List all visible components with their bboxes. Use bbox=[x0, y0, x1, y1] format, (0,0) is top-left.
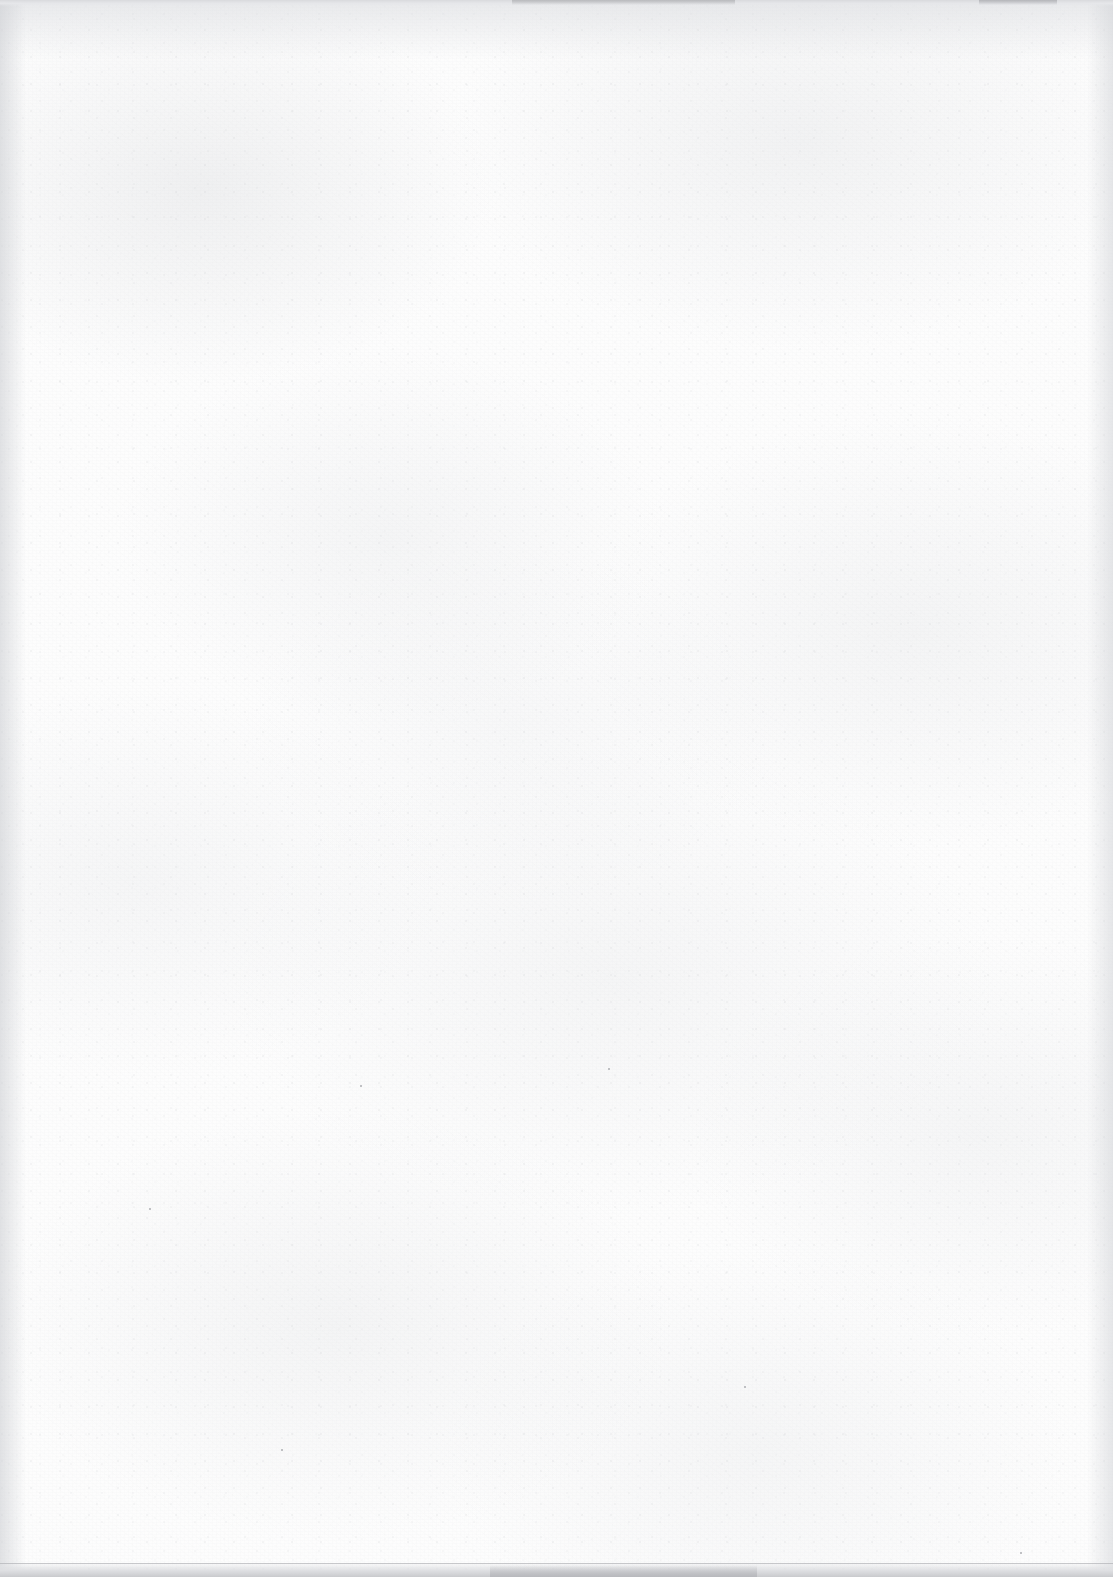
dust-speck bbox=[360, 1085, 362, 1087]
scanned-page bbox=[0, 0, 1113, 1577]
dust-speck bbox=[608, 1068, 610, 1070]
scanner-edge-band-top-dark-segment-right bbox=[979, 0, 1057, 5]
dust-speck bbox=[744, 1386, 746, 1388]
scanner-edge-band-top-dark-segment bbox=[512, 0, 735, 5]
page-edge-shadow-left bbox=[0, 0, 26, 1577]
scanner-edge-band-bottom-rule bbox=[0, 1563, 1113, 1564]
dust-speck bbox=[1020, 1552, 1022, 1554]
dust-speck bbox=[281, 1449, 283, 1451]
dust-speck bbox=[149, 1208, 151, 1210]
scanner-edge-band-bottom-dark-segment bbox=[490, 1565, 757, 1577]
page-edge-shadow-right bbox=[1087, 0, 1113, 1577]
page-edge-shadow-top bbox=[0, 0, 1113, 60]
scanner-noise-speckle bbox=[0, 0, 1113, 1577]
